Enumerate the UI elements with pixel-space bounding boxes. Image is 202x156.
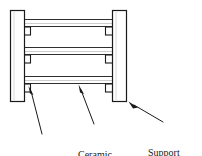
label-ceramic-plates-line-1: Ceramic — [78, 149, 112, 156]
ceramic-plate-top-body — [24, 20, 113, 27]
ceramic-plates-leader-line — [81, 90, 94, 124]
label-ceramic-plates: Ceramic plates — [78, 127, 112, 156]
supports-leader-line — [31, 91, 42, 134]
support-bracket-right-body — [113, 11, 127, 102]
ceramic-plate-bottom — [24, 77, 113, 84]
ceramic-plate-middle-body — [24, 48, 113, 55]
ceramic-plate-middle — [24, 48, 113, 55]
ceramic-plates-arrowhead — [79, 85, 85, 95]
supports-callout-leader — [29, 86, 43, 134]
label-support-bracket: Support bracket — [148, 125, 180, 156]
ceramic-plate-bottom-body — [24, 77, 113, 84]
support-bracket-right — [113, 11, 127, 102]
label-supports: Supports — [13, 138, 49, 156]
support-bracket-left-body — [11, 11, 25, 102]
figure-canvas: Supports Ceramic plates Support bracket — [0, 0, 202, 156]
ceramic-plate-top — [24, 20, 113, 27]
support-bracket-left — [11, 11, 25, 102]
label-support-bracket-line-1: Support — [148, 147, 180, 156]
ceramic-plates-callout-leader — [79, 85, 95, 125]
support-bracket-callout-leader — [129, 102, 164, 123]
support-bracket-leader-line — [134, 105, 163, 122]
support-bracket-arrowhead — [129, 102, 139, 109]
